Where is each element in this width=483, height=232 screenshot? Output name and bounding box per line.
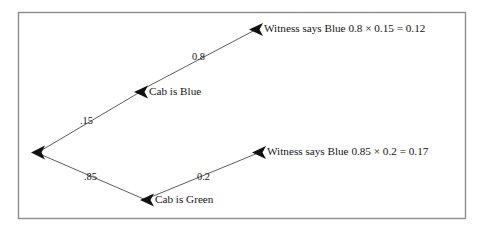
cab-green-arrowhead-icon	[140, 194, 154, 207]
edge-label-cab-blue-to-witness: 0.8	[192, 52, 205, 62]
node-label-cab-green: Cab is Green	[155, 194, 213, 205]
outcome-label-top: Witness says Blue 0.8 × 0.15 = 0.12	[264, 23, 425, 34]
witness-top-arrowhead-icon	[249, 23, 263, 36]
edge-label-root-to-cab-blue: .15	[80, 116, 93, 126]
root-arrowhead-icon	[31, 146, 45, 160]
edge-label-cab-green-to-witness: 0.2	[197, 172, 210, 182]
node-label-cab-blue: Cab is Blue	[149, 86, 201, 97]
outcome-label-bottom: Witness says Blue 0.85 × 0.2 = 0.17	[267, 146, 428, 157]
probability-tree-diagram: Cab is Blue Cab is Green Witness says Bl…	[0, 0, 483, 232]
cab-blue-arrowhead-icon	[134, 86, 148, 99]
tree-canvas	[0, 0, 483, 232]
witness-bottom-arrowhead-icon	[252, 146, 266, 159]
edge-label-root-to-cab-green: .85	[84, 172, 97, 182]
